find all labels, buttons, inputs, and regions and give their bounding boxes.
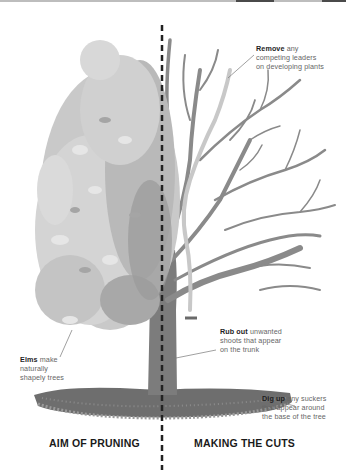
annotation-dig-up-bold: Dig up <box>262 394 285 403</box>
annotation-remove-text: competing leaders <box>256 53 316 62</box>
annotation-rub-out: Rub out unwanted shoots that appear on t… <box>220 327 282 354</box>
annotation-rub-out-text: unwanted <box>248 327 282 336</box>
annotation-rub-out-text: on the trunk <box>220 345 259 354</box>
annotation-elms-text: make <box>38 355 58 364</box>
caption-making-the-cuts: MAKING THE CUTS <box>194 437 295 449</box>
annotation-rub-out-bold: Rub out <box>220 327 248 336</box>
annotation-remove-bold: Remove <box>256 44 285 53</box>
caption-aim-of-pruning: AIM OF PRUNING <box>49 437 140 449</box>
annotation-remove-text: any <box>285 44 299 53</box>
annotation-dig-up-text: any suckers <box>285 394 327 403</box>
annotation-elms-bold: Elms <box>20 355 38 364</box>
annotation-dig-up-text: that appear around <box>262 403 325 412</box>
annotation-rub-out-text: shoots that appear <box>220 336 281 345</box>
annotation-dig-up-text: the base of the tree <box>262 412 326 421</box>
annotation-elms-text: shapely trees <box>20 373 64 382</box>
annotation-elms-text: naturally <box>20 364 48 373</box>
annotation-dig-up: Dig up any suckers that appear around th… <box>262 394 327 421</box>
annotation-remove-text: on developing plants <box>256 62 324 71</box>
annotation-elms: Elms make naturally shapely trees <box>20 355 64 382</box>
annotation-remove: Remove any competing leaders on developi… <box>256 44 324 71</box>
foliage <box>35 40 180 330</box>
